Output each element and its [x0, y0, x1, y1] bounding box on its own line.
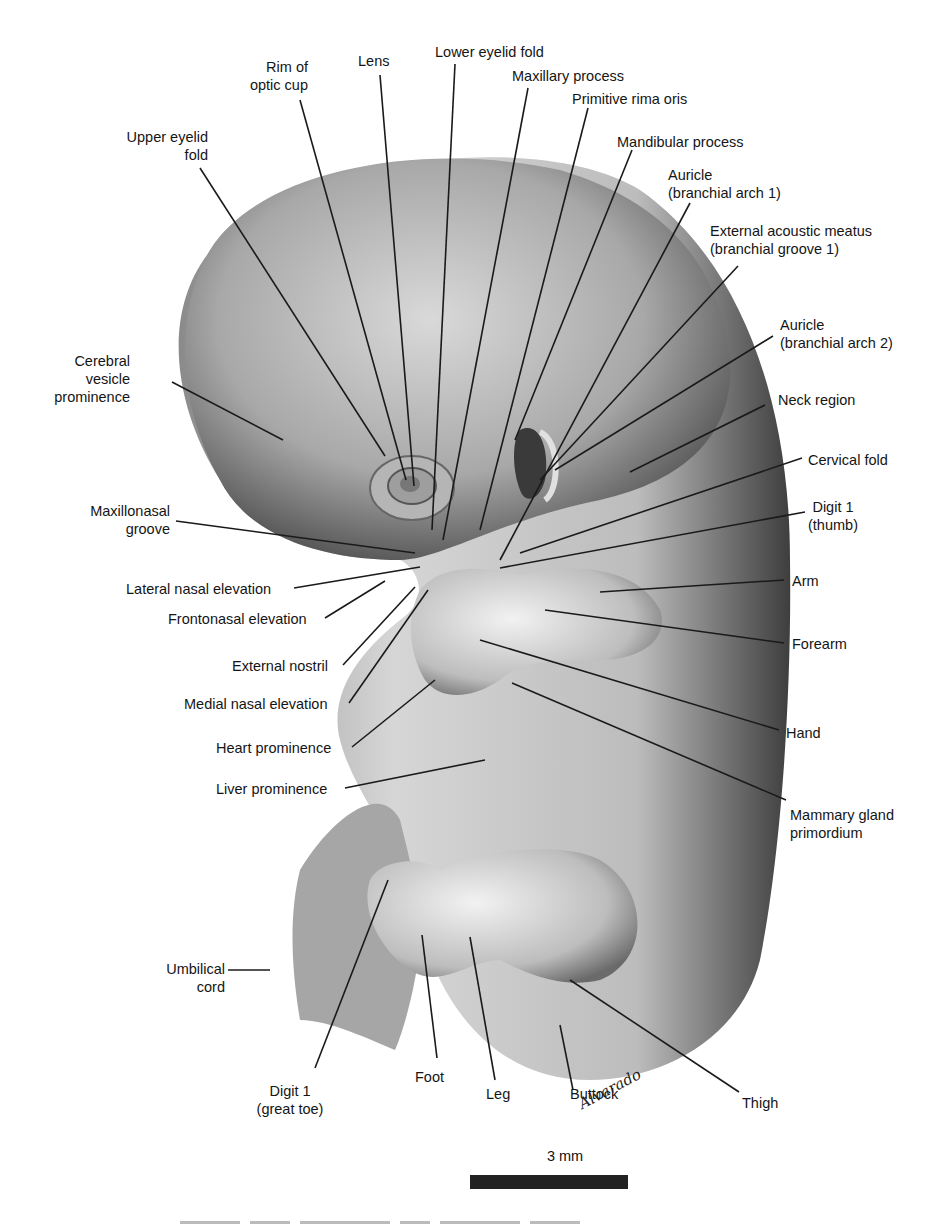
embryo-diagram: Upper eyelid fold Rim of optic cup Lens …: [0, 0, 948, 1228]
label-auricle-arch-1: Auricle (branchial arch 1): [668, 166, 781, 202]
label-forearm: Forearm: [792, 635, 847, 653]
label-auricle-arch-2: Auricle (branchial arch 2): [780, 316, 893, 352]
scale-bar-label: 3 mm: [520, 1148, 610, 1164]
label-lower-eyelid-fold: Lower eyelid fold: [435, 43, 544, 61]
label-cerebral-vesicle-prominence: Cerebral vesicle prominence: [30, 352, 130, 406]
label-digit-1-thumb: Digit 1 (thumb): [808, 498, 858, 534]
label-mammary-gland-primordium: Mammary gland primordium: [790, 806, 894, 842]
label-medial-nasal-elevation: Medial nasal elevation: [184, 695, 327, 713]
label-liver-prominence: Liver prominence: [216, 780, 327, 798]
label-foot: Foot: [415, 1068, 444, 1086]
label-external-nostril: External nostril: [232, 657, 328, 675]
embryo-illustration: [0, 0, 948, 1228]
label-leg: Leg: [486, 1085, 510, 1103]
label-arm: Arm: [792, 572, 819, 590]
label-maxillary-process: Maxillary process: [512, 67, 624, 85]
label-lateral-nasal-elevation: Lateral nasal elevation: [126, 580, 271, 598]
cropped-caption: [180, 1221, 660, 1228]
label-maxillonasal-groove: Maxillonasal groove: [60, 502, 170, 538]
label-umbilical-cord: Umbilical cord: [140, 960, 225, 996]
label-external-acoustic-meatus: External acoustic meatus (branchial groo…: [710, 222, 872, 258]
label-upper-eyelid-fold: Upper eyelid fold: [100, 128, 208, 164]
label-thigh: Thigh: [742, 1094, 778, 1112]
scale-bar: [470, 1175, 628, 1189]
label-cervical-fold: Cervical fold: [808, 451, 888, 469]
label-frontonasal-elevation: Frontonasal elevation: [168, 610, 307, 628]
label-hand: Hand: [786, 724, 821, 742]
label-heart-prominence: Heart prominence: [216, 739, 331, 757]
label-lens: Lens: [358, 52, 389, 70]
label-neck-region: Neck region: [778, 391, 855, 409]
label-rim-optic-cup: Rim of optic cup: [232, 58, 308, 94]
label-digit-1-great-toe: Digit 1 (great toe): [250, 1082, 330, 1118]
label-mandibular-process: Mandibular process: [617, 133, 744, 151]
label-primitive-rima-oris: Primitive rima oris: [572, 90, 687, 108]
